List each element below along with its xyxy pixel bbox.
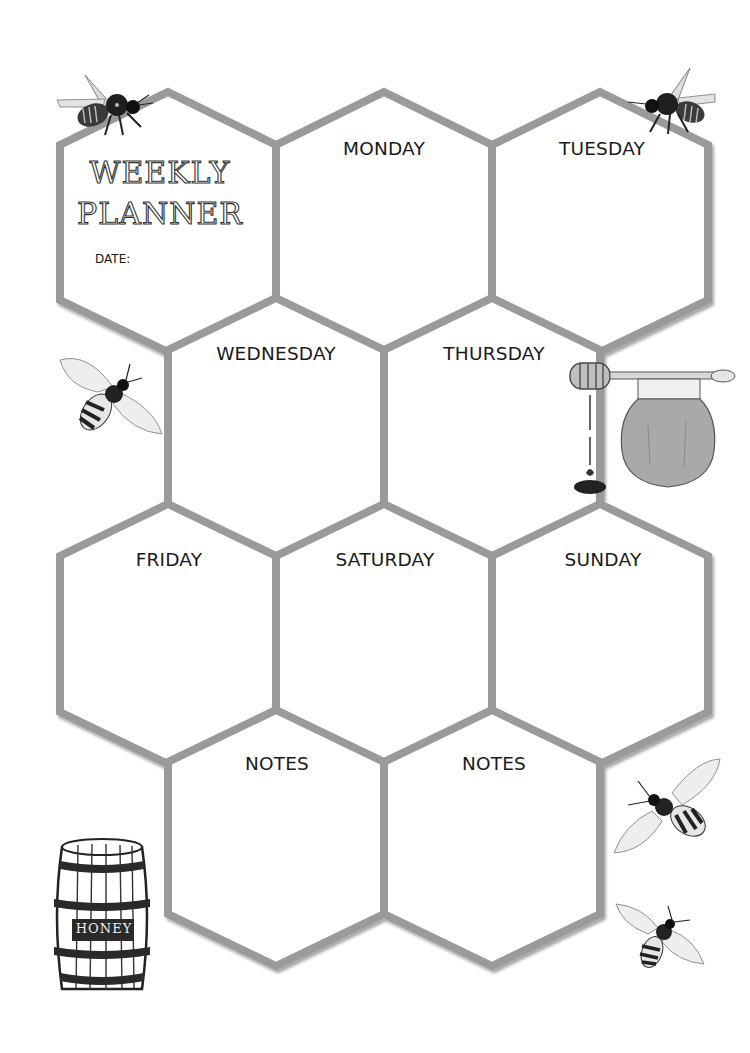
- weekly-planner-page: WEEKLY PLANNER DATE: MONDAY TUESDAY WEDN…: [0, 0, 750, 1053]
- honey-jar-icon: [568, 355, 738, 495]
- label-thursday: THURSDAY: [443, 343, 544, 364]
- label-monday: MONDAY: [343, 138, 425, 159]
- honey-barrel-icon: [48, 835, 158, 1000]
- hex-notes-2: [384, 710, 600, 966]
- bee-icon: [612, 900, 707, 975]
- bee-icon: [55, 65, 165, 145]
- label-friday: FRIDAY: [136, 549, 203, 570]
- barrel-label: HONEY: [75, 921, 133, 936]
- hex-notes-1: [168, 710, 384, 966]
- label-wednesday: WEDNESDAY: [216, 343, 336, 364]
- label-saturday: SATURDAY: [335, 549, 434, 570]
- bee-icon: [612, 755, 727, 855]
- date-label: DATE:: [95, 252, 130, 266]
- title-line-planner: PLANNER: [77, 196, 243, 231]
- label-notes-1: NOTES: [245, 753, 309, 774]
- label-sunday: SUNDAY: [565, 549, 642, 570]
- label-notes-2: NOTES: [462, 753, 526, 774]
- title-line-weekly: WEEKLY: [90, 155, 231, 190]
- bee-icon: [58, 352, 168, 442]
- bee-icon: [620, 66, 730, 146]
